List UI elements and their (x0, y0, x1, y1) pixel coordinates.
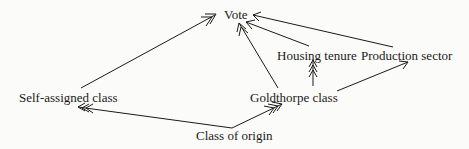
edge-goldthorpe-to-vote (237, 23, 278, 88)
edge-origin-to-goldthorpe (232, 102, 282, 128)
edge-production-to-vote (253, 12, 393, 47)
node-class-of-origin: Class of origin (196, 128, 273, 143)
edge-goldthorpe-to-housing (309, 60, 317, 86)
node-housing-tenure: Housing tenure (277, 48, 357, 63)
node-production-sector: Production sector (361, 48, 452, 63)
edge-goldthorpe-to-production (337, 61, 408, 91)
node-self-assigned-class: Self-assigned class (19, 90, 118, 105)
edge-housing-to-vote (246, 20, 309, 46)
node-goldthorpe-class: Goldthorpe class (250, 90, 338, 105)
node-vote: Vote (224, 7, 248, 22)
edge-self-assigned-to-vote (81, 14, 216, 88)
edges-layer (0, 0, 469, 149)
edge-origin-to-self-assigned (78, 103, 232, 128)
